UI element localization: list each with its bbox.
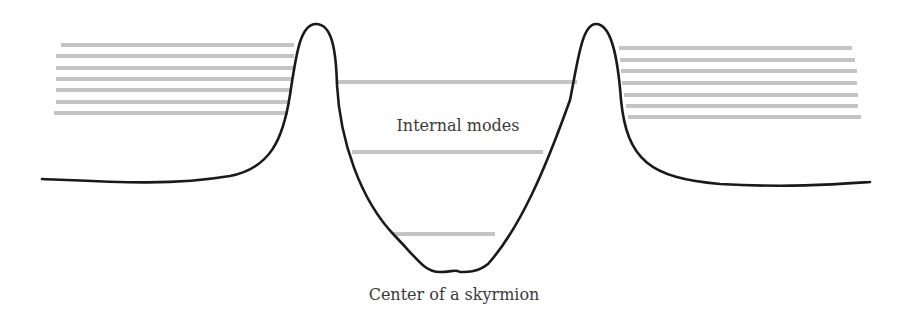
right-continuum-modes <box>619 48 861 117</box>
skyrmion-center-label: Center of a skyrmion <box>369 285 540 304</box>
left-continuum-modes <box>54 45 294 113</box>
skyrmion-potential-diagram <box>0 0 911 318</box>
internal-modes-label: Internal modes <box>397 116 520 135</box>
internal-mode-levels <box>336 82 577 234</box>
